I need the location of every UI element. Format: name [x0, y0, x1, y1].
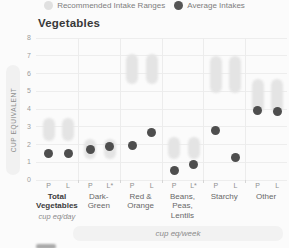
unit-label-day: cup eq/day [32, 212, 82, 221]
y-tick-label-5: 5 [0, 87, 31, 94]
y-tick-label-7: 7 [0, 52, 31, 59]
group-separator [245, 38, 246, 180]
recommended-range-red-L[interactable] [146, 54, 158, 85]
x-axis-tick [120, 180, 121, 183]
group-separator [203, 38, 204, 180]
group-separator [162, 38, 163, 180]
y-tick-label-2: 2 [0, 141, 31, 148]
column-label: L [60, 182, 76, 189]
average-intake-dot-beans-P[interactable] [170, 166, 179, 175]
y-tick-label-0: 0 [0, 176, 31, 183]
recommended-range-total-P[interactable] [43, 118, 55, 141]
vegetables-intake-chart: Recommended Intake Ranges Average Intake… [0, 0, 289, 248]
y-tick-label-3: 3 [0, 123, 31, 130]
column-label: P [166, 182, 182, 189]
column-label: L [269, 182, 285, 189]
column-label: P [41, 182, 57, 189]
column-label: P [250, 182, 266, 189]
column-label: L* [102, 182, 118, 189]
average-intake-dot-red-L[interactable] [147, 128, 156, 137]
legend-label-average: Average Intakes [187, 1, 245, 10]
column-label: P [82, 182, 98, 189]
recommended-range-starchy-P[interactable] [210, 56, 222, 94]
recommended-range-starchy-L[interactable] [229, 56, 241, 94]
y-tick-label-6: 6 [0, 70, 31, 77]
x-axis-tick [78, 180, 79, 183]
chart-title: Vegetables [38, 17, 100, 29]
recommended-range-total-L[interactable] [62, 118, 74, 141]
group-separator [120, 38, 121, 180]
cropped-next-section-artifact [36, 244, 56, 248]
unit-label-week: cup eq/week [73, 229, 283, 238]
column-label: P [208, 182, 224, 189]
column-label: L* [186, 182, 202, 189]
average-intake-dot-starchy-P[interactable] [211, 126, 220, 135]
recommended-range-beans-L[interactable] [188, 137, 200, 159]
chart-legend: Recommended Intake Ranges Average Intake… [0, 1, 289, 10]
recommended-range-beans-P[interactable] [168, 137, 180, 159]
x-axis-tick [162, 180, 163, 183]
recommended-range-icon [44, 1, 53, 10]
average-intake-dot-beans-L[interactable] [189, 160, 198, 169]
column-label: P [124, 182, 140, 189]
average-intake-dot-total-L[interactable] [64, 149, 73, 158]
average-intake-dot-other-P[interactable] [253, 106, 262, 115]
legend-label-recommended: Recommended Intake Ranges [57, 1, 165, 10]
legend-item-average[interactable]: Average Intakes [174, 1, 245, 10]
average-intake-dot-red-P[interactable] [128, 141, 137, 150]
average-intake-dot-other-L[interactable] [273, 107, 282, 116]
group-separator [78, 38, 79, 180]
recommended-range-red-P[interactable] [126, 54, 138, 85]
y-tick-label-4: 4 [0, 105, 31, 112]
average-intake-icon [174, 1, 183, 10]
y-tick-label-8: 8 [0, 34, 31, 41]
column-label: L [144, 182, 160, 189]
group-name-other: Other [241, 192, 289, 201]
legend-item-recommended[interactable]: Recommended Intake Ranges [44, 1, 165, 10]
y-tick-label-1: 1 [0, 158, 31, 165]
x-axis-tick [203, 180, 204, 183]
x-axis-tick [245, 180, 246, 183]
average-intake-dot-total-P[interactable] [44, 149, 53, 158]
column-label: L [227, 182, 243, 189]
